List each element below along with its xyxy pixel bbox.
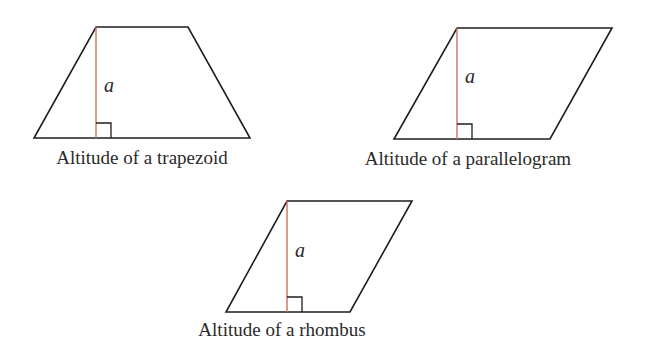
parallelogram-caption: Altitude of a parallelogram: [365, 148, 572, 169]
rhombus-caption: Altitude of a rhombus: [198, 319, 365, 340]
trapezoid-outline: [34, 27, 250, 138]
parallelogram-altitude-label: a: [465, 65, 475, 87]
trapezoid-right-angle-icon: [96, 123, 111, 138]
parallelogram-figure: a Altitude of a parallelogram: [365, 28, 612, 169]
parallelogram-outline: [394, 28, 612, 139]
trapezoid-figure: a Altitude of a trapezoid: [34, 27, 250, 168]
rhombus-figure: a Altitude of a rhombus: [198, 201, 412, 340]
rhombus-outline: [226, 201, 412, 312]
trapezoid-caption: Altitude of a trapezoid: [56, 147, 228, 168]
trapezoid-altitude-label: a: [104, 74, 114, 96]
rhombus-altitude-label: a: [295, 239, 305, 261]
rhombus-right-angle-icon: [287, 297, 302, 312]
altitude-diagrams: a Altitude of a trapezoid a Altitude of …: [0, 0, 645, 349]
parallelogram-right-angle-icon: [457, 124, 472, 139]
